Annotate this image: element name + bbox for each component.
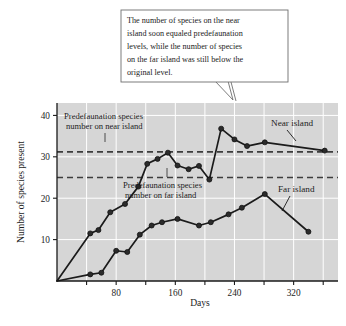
y-tick-label: 10 — [41, 235, 51, 245]
data-point — [232, 137, 237, 142]
y-axis-title: Number of species present — [15, 141, 26, 243]
x-tick-label: 240 — [227, 288, 241, 298]
data-point — [196, 163, 201, 168]
y-tick-labels: 10203040 — [41, 111, 51, 245]
data-point — [219, 126, 224, 131]
callout-line: levels, while the number of species — [127, 42, 242, 51]
data-point — [155, 156, 160, 161]
x-tick-label: 320 — [287, 288, 301, 298]
near-ref-annotation-line2: number on near island — [66, 121, 143, 131]
y-tick-label: 20 — [41, 194, 51, 204]
species-accumulation-chart: 10203040 80160240320 Number of species p… — [0, 0, 346, 326]
data-point — [108, 210, 113, 215]
data-point — [88, 272, 93, 277]
far-series-label: Far island — [278, 184, 315, 194]
data-point — [99, 270, 104, 275]
data-point — [88, 231, 93, 236]
data-point — [175, 163, 180, 168]
callout-line: island soon equaled predefaunation — [127, 29, 243, 38]
near-series-label: Near island — [271, 118, 313, 128]
data-point — [239, 205, 244, 210]
data-point — [96, 228, 101, 233]
callout-line: on the far island was still below the — [127, 55, 244, 64]
near-ref-annotation-line1: Predefaunation species — [64, 111, 144, 121]
x-tick-label: 80 — [112, 288, 122, 298]
data-point — [145, 161, 150, 166]
data-point — [137, 232, 142, 237]
data-point — [175, 216, 180, 221]
y-tick-label: 40 — [41, 111, 51, 121]
x-axis-title: Days — [190, 297, 210, 308]
far-ref-annotation-line1: Predefaunation species — [123, 180, 203, 190]
y-tick-label: 30 — [41, 152, 51, 162]
data-point — [160, 220, 165, 225]
data-point — [208, 220, 213, 225]
data-point — [196, 223, 201, 228]
callout-line: original level. — [127, 68, 172, 77]
callout-box: The number of species on the nearisland … — [121, 10, 288, 101]
far-ref-annotation-line2: number on far island — [125, 190, 197, 200]
callout-pointer — [215, 81, 233, 100]
figure-container: 10203040 80160240320 Number of species p… — [0, 0, 346, 326]
x-tick-label: 160 — [168, 288, 182, 298]
data-point — [114, 248, 119, 253]
data-point — [262, 140, 267, 145]
data-point — [165, 150, 170, 155]
data-point — [322, 148, 327, 153]
data-point — [207, 177, 212, 182]
data-point — [149, 223, 154, 228]
data-point — [262, 192, 267, 197]
data-point — [306, 229, 311, 234]
data-point — [245, 144, 250, 149]
data-point — [123, 202, 128, 207]
callout-line: The number of species on the near — [127, 16, 240, 25]
data-point — [186, 167, 191, 172]
data-point — [226, 212, 231, 217]
data-point — [125, 250, 130, 255]
